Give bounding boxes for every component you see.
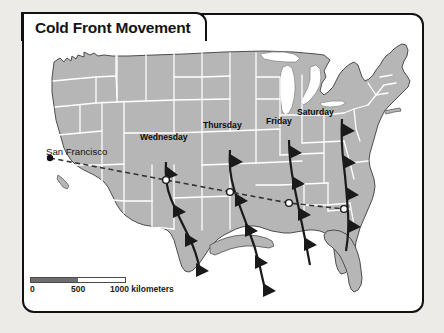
scale-bar-filled-segment bbox=[31, 278, 78, 282]
southwest-coastal-detail bbox=[57, 175, 69, 189]
front-node-friday bbox=[286, 200, 293, 207]
scale-tick-0: 0 bbox=[30, 284, 35, 294]
page-title: Cold Front Movement bbox=[35, 20, 191, 36]
front-node-thursday bbox=[227, 189, 234, 196]
us-map-graphic bbox=[24, 15, 422, 311]
scale-bar-empty-segment bbox=[78, 278, 125, 282]
scale-tick-1000: 1000 kilometers bbox=[110, 284, 174, 294]
weather-map-figure: Cold Front Movement bbox=[0, 0, 444, 333]
scale-bar-track bbox=[30, 277, 126, 283]
scale-bar: 0 500 1000 kilometers bbox=[30, 277, 180, 297]
front-label-saturday: Saturday bbox=[297, 107, 334, 117]
scale-tick-500: 500 bbox=[71, 284, 85, 294]
front-label-wednesday: Wednesday bbox=[140, 132, 188, 142]
front-label-friday: Friday bbox=[266, 116, 292, 126]
front-node-wednesday bbox=[163, 177, 170, 184]
front-label-thursday: Thursday bbox=[203, 120, 242, 130]
scale-bar-labels: 0 500 1000 kilometers bbox=[30, 284, 180, 297]
city-label-san-francisco: San Francisco bbox=[46, 146, 107, 157]
title-banner: Cold Front Movement bbox=[21, 12, 207, 41]
front-node-saturday bbox=[341, 206, 348, 213]
